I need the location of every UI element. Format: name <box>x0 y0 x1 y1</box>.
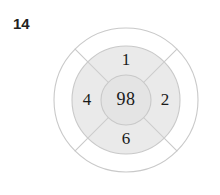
figure-root: 14 98 1 2 6 4 <box>0 0 220 195</box>
segment-value-left: 4 <box>83 90 92 109</box>
circle-wheel-diagram: 98 1 2 6 4 <box>0 0 220 195</box>
segment-value-right: 2 <box>161 90 170 109</box>
segment-value-bottom: 6 <box>122 129 131 148</box>
segment-value-top: 1 <box>122 50 131 69</box>
center-value: 98 <box>117 89 136 109</box>
